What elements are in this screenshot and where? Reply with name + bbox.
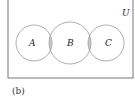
set-c-label: C	[105, 38, 112, 48]
universe-label: U	[122, 8, 130, 18]
set-b-label: B	[66, 38, 74, 48]
set-a-label: A	[28, 38, 36, 48]
venn-diagram: A B C U	[0, 0, 135, 99]
figure-caption: (b)	[12, 86, 25, 96]
